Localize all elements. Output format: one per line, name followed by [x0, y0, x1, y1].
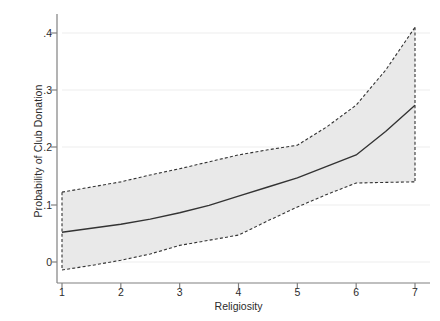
- x-tick-label: 3: [165, 286, 195, 298]
- y-tick-marks: [51, 33, 57, 262]
- confidence-interval-band: [62, 27, 415, 270]
- x-tick-label: 1: [47, 286, 77, 298]
- x-tick-label: 7: [400, 286, 430, 298]
- marginal-effects-chart: Probability of Club Donation .4 .3 .2 .1…: [0, 0, 440, 321]
- x-tick-label: 6: [341, 286, 371, 298]
- x-tick-label: 5: [282, 286, 312, 298]
- plot-area: [0, 0, 440, 321]
- x-tick-label: 4: [224, 286, 254, 298]
- x-axis-title: Religiosity: [62, 300, 415, 312]
- x-tick-label: 2: [106, 286, 136, 298]
